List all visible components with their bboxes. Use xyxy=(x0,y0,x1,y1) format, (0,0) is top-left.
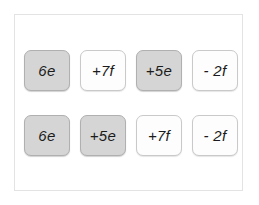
term-tile[interactable]: +5e xyxy=(80,115,126,156)
term-tile-label: +7f xyxy=(92,62,114,79)
term-tile[interactable]: +7f xyxy=(136,115,182,156)
tile-row-rearranged-expression: 6e +5e +7f - 2f xyxy=(24,115,238,156)
term-tile[interactable]: +5e xyxy=(136,50,182,91)
term-tile-label: - 2f xyxy=(204,127,227,144)
tile-row-original-expression: 6e +7f +5e - 2f xyxy=(24,50,238,91)
term-tile[interactable]: - 2f xyxy=(192,50,238,91)
term-tile[interactable]: 6e xyxy=(24,50,70,91)
term-tile-label: 6e xyxy=(38,127,55,144)
term-tile-label: +5e xyxy=(90,127,116,144)
term-tile-label: 6e xyxy=(38,62,55,79)
term-tile-label: +5e xyxy=(146,62,172,79)
term-tile-label: +7f xyxy=(148,127,170,144)
term-tile-label: - 2f xyxy=(204,62,227,79)
term-tile[interactable]: - 2f xyxy=(192,115,238,156)
term-tile[interactable]: 6e xyxy=(24,115,70,156)
term-tile[interactable]: +7f xyxy=(80,50,126,91)
algebra-tile-panel: 6e +7f +5e - 2f 6e +5e +7f - 2f xyxy=(14,14,243,191)
